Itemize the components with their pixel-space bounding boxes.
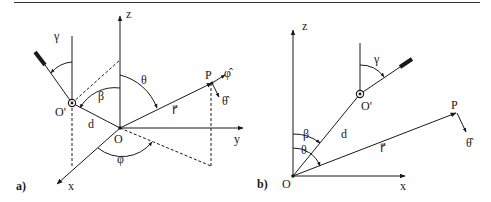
beta-label-a: β: [98, 89, 104, 103]
gamma-arc-b: [360, 65, 384, 77]
panel-a: [35, 16, 243, 184]
r-label-a: r⃗: [172, 103, 178, 117]
phi-hat-label: φ̂: [224, 66, 233, 80]
p-label-b: P: [451, 98, 458, 112]
o-label-b: O: [282, 177, 291, 191]
o-label-a: O: [114, 132, 123, 146]
panel-a-tag: a): [16, 179, 26, 193]
probe-tip-b: [400, 59, 412, 67]
z-label-b: z: [302, 19, 307, 33]
d-label-a: d: [88, 117, 94, 131]
r-vector-a: [120, 83, 212, 128]
x-label-b: x: [400, 179, 406, 193]
beta-label-b: β: [303, 127, 309, 141]
theta-hat-vector: [212, 83, 219, 97]
x-label-a: x: [68, 179, 74, 193]
gamma-label-b: γ: [373, 52, 380, 66]
dashed-proj-phi: [120, 128, 211, 166]
probe-stick-a: [45, 65, 72, 103]
oprime-label-a: O': [55, 105, 66, 119]
oprime-dot-b: [359, 93, 362, 96]
r-label-b: r⃗: [380, 141, 386, 155]
d-label-b: d: [341, 127, 347, 141]
origin-dot-a: [118, 126, 122, 130]
theta-arc-a: [120, 75, 157, 108]
d-line-a: [72, 103, 120, 128]
probe-stick-b: [360, 67, 400, 94]
y-label-a: y: [234, 132, 240, 146]
r-vector-b: [293, 113, 456, 176]
z-label-a: z: [126, 7, 131, 21]
theta-hat-vector-b: [457, 113, 466, 132]
phi-arc-a: [98, 142, 152, 157]
theta-hat-label-b: θ̂: [466, 136, 474, 150]
theta-label-a: θ: [141, 73, 147, 87]
phi-label-a: φ: [117, 152, 124, 166]
oprime-dot-a: [71, 102, 74, 105]
p-label-a: P: [205, 68, 212, 82]
probe-tip-a: [35, 52, 45, 65]
oprime-label-b: O': [361, 99, 372, 113]
theta-hat-label: θ̂: [222, 94, 230, 108]
theta-label-b: θ: [301, 143, 307, 157]
panel-b-tag: b): [257, 177, 268, 191]
gamma-label-a: γ: [53, 29, 60, 43]
gamma-arc-a: [51, 62, 72, 73]
figure-canvas: z y x O O' P d r⃗ γ β θ φ φ̂ θ̂ a) z x O…: [0, 0, 491, 202]
x-axis-a: [57, 128, 120, 184]
dashed-oprime-z: [72, 60, 120, 103]
origin-dot-b: [291, 174, 295, 178]
